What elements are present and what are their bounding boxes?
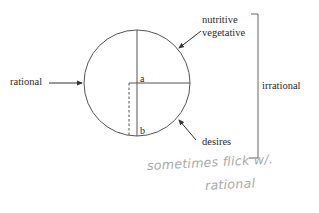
label-point-a: a [140, 73, 144, 84]
label-desires: desires [202, 136, 231, 148]
label-point-b: b [140, 125, 145, 136]
label-irrational: irrational [262, 80, 300, 92]
diagram-graphics [0, 0, 319, 213]
label-rational: rational [10, 76, 42, 88]
nutritive-arrow [179, 31, 201, 48]
handwritten-note-line-2: rational [205, 175, 256, 193]
label-vegetative: vegetative [202, 27, 245, 39]
label-nutritive: nutritive [202, 14, 238, 26]
desires-arrow [179, 120, 196, 140]
irrational-bracket [249, 14, 258, 158]
soul-parts-diagram: rational nutritive vegetative irrational… [0, 0, 319, 213]
